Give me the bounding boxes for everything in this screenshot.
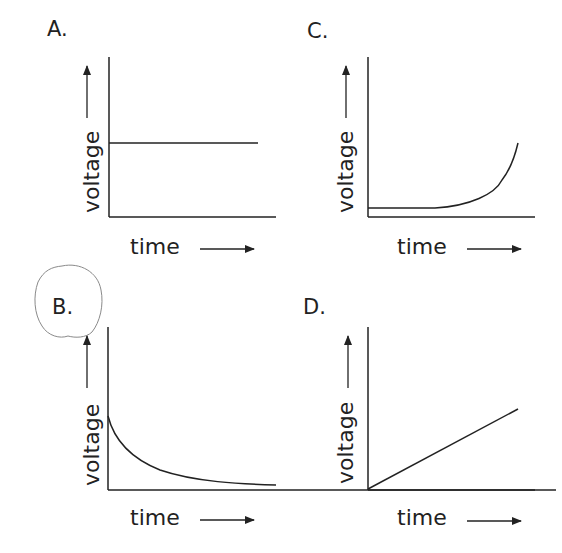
panel-label: B.	[52, 295, 73, 319]
voltage-time-graphs: A. voltage time C. voltage time B. volta…	[0, 0, 562, 553]
panel-label: D.	[303, 295, 326, 319]
y-axis-label: voltage	[79, 404, 104, 486]
panel-d: D. voltage time	[303, 295, 535, 530]
panel-label: A.	[47, 17, 68, 41]
decay-curve	[108, 416, 276, 485]
y-axis-label: voltage	[79, 131, 104, 213]
x-axis-label: time	[397, 234, 447, 259]
rising-curve	[368, 143, 518, 208]
panel-label: C.	[307, 19, 328, 43]
panel-c: C. voltage time	[307, 19, 535, 259]
x-axis-label: time	[130, 505, 180, 530]
panel-a: A. voltage time	[47, 17, 276, 259]
y-axis-label: voltage	[333, 402, 358, 484]
y-axis-label: voltage	[333, 131, 358, 213]
x-axis-label: time	[397, 505, 447, 530]
x-axis-label: time	[130, 234, 180, 259]
linear-line	[368, 409, 518, 489]
